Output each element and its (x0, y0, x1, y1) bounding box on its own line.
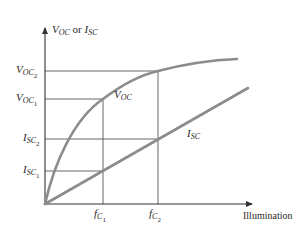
fc2-label: fC2 (149, 207, 161, 224)
voc1-label: VOC1 (16, 91, 38, 108)
voc-curve-label: VOC (114, 88, 133, 102)
isc-line (45, 88, 248, 204)
voc2-label: VOC2 (16, 63, 38, 80)
isc-line-label: ISC (186, 127, 201, 141)
fc1-label: fC1 (94, 207, 106, 224)
guide-lines (45, 71, 158, 204)
isc2-label: ISC2 (22, 131, 40, 148)
x-axis-title: Illumination (243, 210, 292, 221)
voc-curve (45, 59, 237, 204)
isc1-label: ISC1 (22, 163, 40, 180)
y-axis-title: VOC or ISC (52, 23, 98, 37)
illumination-chart: VOC or ISC VOC2 VOC1 ISC2 ISC1 fC1 fC2 I… (0, 0, 308, 230)
